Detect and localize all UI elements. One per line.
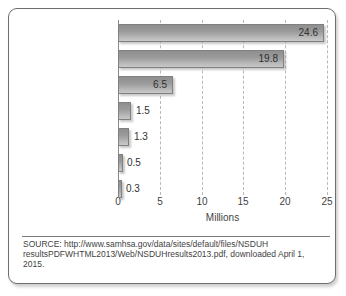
- x-axis-title: Millions: [118, 212, 327, 223]
- bar-cocaine[interactable]: [118, 102, 131, 120]
- gridline-10: [202, 20, 203, 195]
- x-tick-label-5: 5: [157, 196, 163, 207]
- bar-value-inhalants: 0.5: [127, 157, 141, 168]
- gridline-15: [243, 20, 244, 195]
- bar-value-cocaine: 1.5: [136, 105, 150, 116]
- bar-heroin[interactable]: [118, 180, 122, 198]
- x-tick-label-25: 25: [321, 196, 332, 207]
- source-divider: [22, 236, 330, 237]
- gridline-25: [327, 20, 328, 195]
- bar-value-marijuana: 19.8: [259, 53, 278, 64]
- bar-value-psychotherapeutics: 6.5: [153, 79, 167, 90]
- bar-hallucinogens[interactable]: [118, 128, 129, 146]
- x-tick-label-15: 15: [237, 196, 248, 207]
- bar-illicit-drugs[interactable]: [118, 24, 324, 42]
- bar-value-hallucinogens: 1.3: [134, 131, 148, 142]
- x-tick-label-10: 10: [196, 196, 207, 207]
- figure-container: 0 5 10 15 20 25 Millions Illicit drugs 2…: [0, 0, 346, 296]
- bar-inhalants[interactable]: [118, 154, 123, 172]
- bar-value-illicit-drugs: 24.6: [299, 27, 318, 38]
- bar-value-heroin: 0.3: [126, 183, 140, 194]
- gridline-5: [160, 20, 161, 195]
- gridline-20: [285, 20, 286, 195]
- x-tick-label-20: 20: [279, 196, 290, 207]
- source-note: SOURCE: http://www.samhsa.gov/data/sites…: [23, 239, 323, 270]
